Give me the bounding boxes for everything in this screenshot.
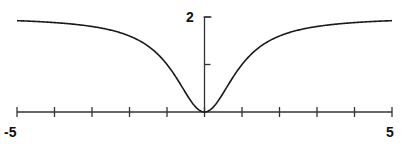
- plot-area: -5 5 2: [0, 0, 406, 144]
- axes: [17, 17, 392, 117]
- x-min-label: -5: [4, 124, 17, 140]
- y-max-label: 2: [186, 9, 194, 25]
- x-max-label: 5: [386, 124, 394, 140]
